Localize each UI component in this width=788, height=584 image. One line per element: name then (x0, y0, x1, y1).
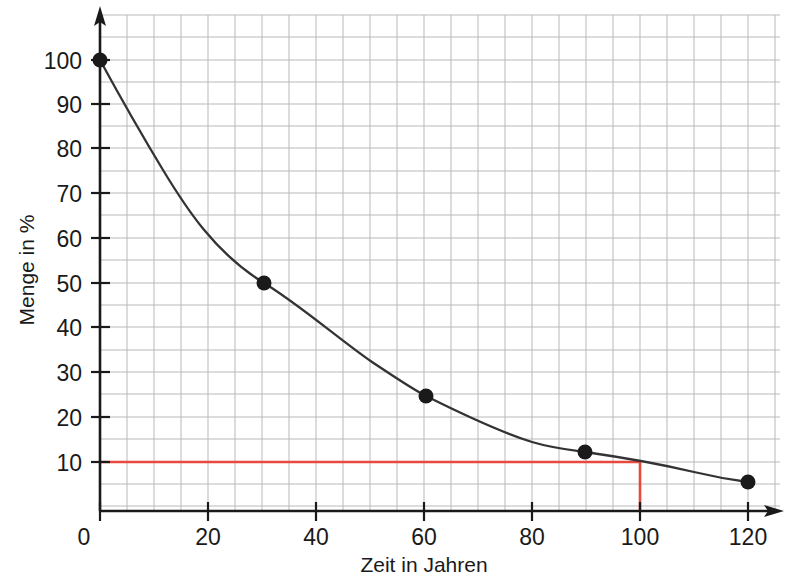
y-tick-label: 20 (56, 405, 82, 431)
y-tick-label: 50 (56, 271, 82, 297)
chart-svg: 100 90 80 70 60 50 40 30 20 10 0 20 40 6… (0, 0, 788, 584)
x-tick-label: 20 (195, 524, 221, 550)
x-axis-title: Zeit in Jahren (360, 553, 487, 576)
x-tick-label: 40 (303, 524, 329, 550)
data-point-marker (93, 53, 108, 68)
data-point-marker (741, 475, 756, 490)
data-point-marker (578, 445, 593, 460)
decay-chart: 100 90 80 70 60 50 40 30 20 10 0 20 40 6… (0, 0, 788, 584)
data-point-marker (257, 276, 272, 291)
x-tick-label: 120 (729, 524, 767, 550)
y-tick-label: 70 (56, 181, 82, 207)
x-tick-label: 60 (411, 524, 437, 550)
data-point-marker (419, 389, 434, 404)
y-tick-label: 90 (56, 92, 82, 118)
chart-background (0, 0, 788, 584)
x-tick-label: 100 (621, 524, 659, 550)
y-tick-label: 80 (56, 136, 82, 162)
y-tick-label: 60 (56, 226, 82, 252)
y-tick-label: 10 (56, 450, 82, 476)
y-tick-label: 30 (56, 360, 82, 386)
y-tick-label: 40 (56, 315, 82, 341)
x-tick-label: 0 (78, 524, 91, 550)
y-tick-label: 100 (44, 48, 82, 74)
x-tick-label: 80 (519, 524, 545, 550)
y-axis-title: Menge in % (15, 215, 38, 326)
